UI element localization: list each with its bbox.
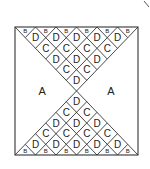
cell-label-b: B [44, 28, 48, 34]
cell-label-b: B [105, 148, 109, 154]
cell-label-c: C [83, 128, 90, 139]
cell-label-d: D [93, 32, 100, 43]
label-a-left: A [38, 85, 46, 97]
cell-label-b: B [64, 28, 68, 34]
cell-label-c: C [83, 43, 90, 54]
cell-label-c: C [83, 64, 90, 75]
cell-label-b: B [126, 148, 130, 154]
cell-label-d: D [73, 75, 80, 86]
cell-label-d: D [73, 32, 80, 43]
cell-label-b: B [85, 28, 89, 34]
cell-label-b: B [105, 28, 109, 34]
cell-label-c: C [63, 128, 70, 139]
cell-label-d: D [73, 96, 80, 107]
cell-label-d: D [52, 32, 59, 43]
cell-label-d: D [93, 139, 100, 150]
cell-label-c: C [83, 107, 90, 118]
cell-label-c: C [63, 64, 70, 75]
cell-label-b: B [23, 148, 27, 154]
cell-label-c: C [42, 128, 49, 139]
cell-label-d: D [93, 118, 100, 129]
cell-label-c: C [63, 43, 70, 54]
cell-label-c: C [104, 128, 111, 139]
cell-label-b: B [85, 148, 89, 154]
cell-label-d: D [73, 54, 80, 65]
cell-label-d: D [32, 139, 39, 150]
cell-label-c: C [104, 43, 111, 54]
cell-label-d: D [114, 139, 121, 150]
cell-label-d: D [52, 118, 59, 129]
quilt-diagram: AABBBBBBDDDDDCCCCDDDCCDDCCDDDCCCCDDDDDBB… [0, 0, 150, 169]
cell-label-d: D [32, 32, 39, 43]
cell-label-b: B [44, 148, 48, 154]
cell-label-b: B [126, 28, 130, 34]
cell-label-d: D [73, 118, 80, 129]
cell-label-d: D [114, 32, 121, 43]
cell-label-c: C [63, 107, 70, 118]
cell-label-d: D [93, 54, 100, 65]
cell-label-b: B [64, 148, 68, 154]
corner-mark [144, 1, 149, 7]
cell-label-d: D [73, 139, 80, 150]
cell-label-d: D [52, 139, 59, 150]
label-a-right: A [107, 85, 115, 97]
cell-label-b: B [23, 28, 27, 34]
cell-label-c: C [42, 43, 49, 54]
cell-label-d: D [52, 54, 59, 65]
